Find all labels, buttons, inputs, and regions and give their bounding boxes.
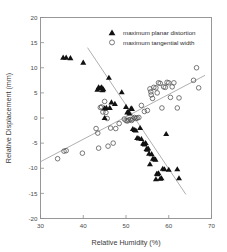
data-point-circle <box>196 86 201 91</box>
legend-label-tangential-width: maximum tangential width <box>123 39 195 46</box>
data-point-triangle <box>163 131 169 136</box>
data-point-circle <box>94 126 99 131</box>
data-point-triangle <box>147 161 153 166</box>
data-point-circle <box>168 95 173 100</box>
data-point-triangle <box>123 104 129 109</box>
data-point-circle <box>102 99 107 104</box>
data-point-circle <box>106 144 111 149</box>
data-point-circle <box>177 96 182 101</box>
data-point-circle <box>55 156 60 161</box>
data-point-circle <box>111 141 116 146</box>
scatter-plot: 3040506070 -20-15-10-505101520 Relative … <box>0 0 227 252</box>
y-axis-ticks <box>41 18 45 219</box>
legend-label-planar-distortion: maximum planar distortion <box>123 29 196 36</box>
series-maximum-planar-distortion <box>60 55 182 182</box>
data-point-triangle <box>119 89 125 94</box>
filled-triangle-icon <box>109 30 116 36</box>
x-axis-ticks <box>41 215 212 219</box>
data-point-circle <box>108 126 113 131</box>
data-point-circle <box>117 121 122 126</box>
data-point-circle <box>104 110 109 115</box>
data-point-circle <box>96 146 101 151</box>
y-tick-label: 10 <box>31 64 38 71</box>
data-point-triangle <box>102 115 108 120</box>
y-tick-label: 15 <box>31 39 38 46</box>
x-tick-label: 50 <box>123 222 130 229</box>
data-point-triangle <box>67 55 73 60</box>
data-point-circle <box>172 81 177 86</box>
data-point-circle <box>142 109 147 114</box>
legend-item-planar-distortion: maximum planar distortion <box>109 29 197 36</box>
data-point-triangle <box>174 166 180 171</box>
data-point-circle <box>145 108 150 113</box>
x-axis-tick-labels: 3040506070 <box>37 222 215 229</box>
x-tick-label: 70 <box>208 222 215 229</box>
y-tick-label: 20 <box>31 14 38 21</box>
y-axis-tick-labels: -20-15-10-505101520 <box>29 14 39 222</box>
x-tick-label: 60 <box>165 222 172 229</box>
data-point-circle <box>194 65 199 70</box>
data-point-circle <box>175 106 180 111</box>
data-point-circle <box>113 126 118 131</box>
data-point-triangle <box>80 60 86 65</box>
data-point-circle <box>139 103 144 108</box>
x-tick-label: 30 <box>37 222 44 229</box>
data-point-circle <box>80 151 85 156</box>
data-point-circle <box>155 91 160 96</box>
chart-figure: 3040506070 -20-15-10-505101520 Relative … <box>0 0 227 252</box>
legend-item-tangential-width: maximum tangential width <box>110 39 196 46</box>
y-tick-label: -20 <box>29 215 39 222</box>
y-tick-label: 5 <box>34 89 38 96</box>
data-point-triangle <box>106 75 112 80</box>
y-tick-label: 0 <box>34 114 38 121</box>
data-point-circle <box>160 106 165 111</box>
x-tick-label: 40 <box>80 222 87 229</box>
y-tick-label: -5 <box>32 139 38 146</box>
x-axis-title: Relative Humidity (%) <box>91 238 160 247</box>
open-circle-icon <box>110 40 115 45</box>
y-axis-title: Relative Displacement (mm) <box>4 73 13 163</box>
y-tick-label: -15 <box>29 190 39 197</box>
y-tick-label: -10 <box>29 164 39 171</box>
data-point-triangle <box>176 175 182 180</box>
data-point-triangle <box>137 125 143 130</box>
chart-legend: maximum planar distortion maximum tangen… <box>109 29 197 46</box>
data-point-triangle <box>166 167 172 172</box>
